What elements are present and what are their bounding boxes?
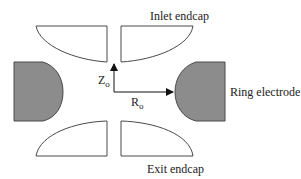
- ring-electrode-label: Ring electrode: [230, 85, 300, 99]
- r-axis-symbol: R: [131, 95, 139, 109]
- exit-endcap-label: Exit endcap: [147, 162, 204, 176]
- exit-endcap-left: [36, 121, 107, 156]
- inlet-endcap-left: [36, 26, 107, 62]
- ring-electrode-left: [14, 62, 63, 121]
- inlet-endcap-right: [121, 26, 193, 62]
- r-axis-subscript: o: [139, 101, 144, 111]
- z-axis-subscript: o: [105, 79, 110, 89]
- z-axis-label: Zo: [98, 73, 110, 89]
- r-axis-label: Ro: [131, 95, 144, 111]
- exit-endcap-right: [121, 121, 193, 156]
- inlet-endcap-label: Inlet endcap: [150, 9, 209, 23]
- ring-electrode-right: [175, 62, 225, 121]
- ion-trap-diagram: Inlet endcap Exit endcap Ring electrode …: [0, 0, 301, 179]
- z-axis-symbol: Z: [98, 73, 105, 87]
